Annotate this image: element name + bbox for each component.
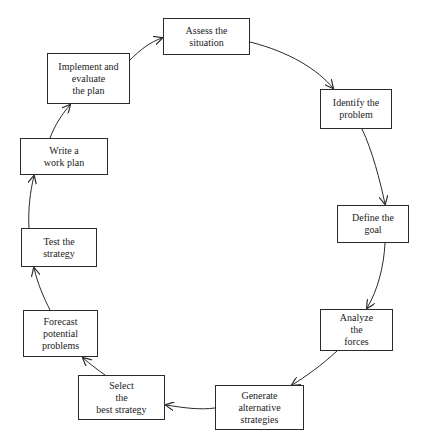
arrow-define-to-analyze — [367, 243, 385, 308]
step-text-line: potential — [43, 328, 78, 340]
arrow-generate-to-select — [166, 405, 215, 409]
step-assess-the-situation: Assess the situation — [163, 18, 250, 55]
step-generate-alternative-strategies: Generate alternative strategies — [215, 385, 304, 430]
step-text-line: situation — [189, 37, 223, 49]
arrow-implement-to-assess — [130, 38, 162, 60]
step-text-line: best strategy — [96, 404, 146, 416]
step-text-line: Test the — [43, 236, 74, 248]
step-write-a-work-plan: Write a work plan — [20, 138, 108, 175]
step-define-the-goal: Define the goal — [337, 205, 409, 243]
step-analyze-the-forces: Analyze the forces — [320, 309, 393, 351]
step-text-line: alternative — [238, 402, 280, 414]
step-text-line: Identify the — [333, 97, 379, 109]
step-text-line: Implement and — [58, 61, 118, 73]
arrow-assess-to-identify — [250, 42, 333, 88]
step-text-line: Generate — [241, 390, 277, 402]
step-text-line: the — [350, 324, 362, 336]
step-text-line: Analyze — [340, 312, 373, 324]
step-implement-and-evaluate-the-plan: Implement and evaluate the plan — [47, 53, 130, 104]
arrow-forecast-to-test — [34, 268, 50, 310]
step-text-line: Select — [109, 380, 133, 392]
step-text-line: Write a — [49, 145, 78, 157]
arrow-write-to-implement — [50, 105, 70, 138]
arrow-identify-to-define — [362, 129, 385, 204]
step-identify-the-problem: Identify the problem — [320, 89, 392, 129]
step-text-line: strategies — [241, 414, 279, 426]
step-text-line: the — [115, 392, 127, 404]
step-text-line: strategy — [43, 248, 75, 260]
step-text-line: Assess the — [186, 25, 228, 37]
arrow-analyze-to-generate — [292, 351, 337, 385]
step-text-line: problems — [42, 340, 79, 352]
step-forecast-potential-problems: Forecast potential problems — [23, 310, 98, 357]
arrow-test-to-write — [29, 176, 34, 228]
step-text-line: the plan — [73, 85, 105, 97]
step-text-line: work plan — [44, 157, 84, 169]
step-select-the-best-strategy: Select the best strategy — [78, 375, 165, 420]
step-text-line: goal — [364, 224, 381, 236]
step-text-line: evaluate — [72, 73, 105, 85]
cycle-diagram: Assess the situation Identify the proble… — [0, 0, 423, 443]
step-text-line: forces — [344, 336, 368, 348]
arrow-select-to-forecast — [83, 358, 105, 375]
step-text-line: problem — [339, 109, 372, 121]
step-test-the-strategy: Test the strategy — [21, 228, 97, 267]
step-text-line: Forecast — [44, 316, 78, 328]
step-text-line: Define the — [352, 212, 394, 224]
